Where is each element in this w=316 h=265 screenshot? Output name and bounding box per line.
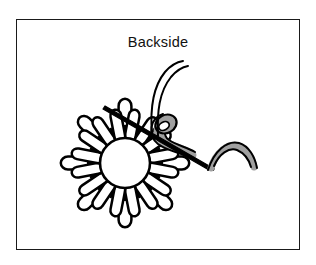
figure-root: Backside [0, 0, 316, 265]
stitch-illustration [0, 0, 316, 265]
flower-center-hole [100, 138, 150, 188]
thread-tail-right [208, 143, 257, 170]
